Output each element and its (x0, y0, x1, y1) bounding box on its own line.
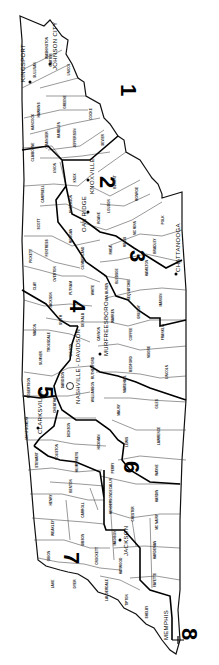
city-label: KNOXVILLE (89, 158, 95, 194)
county-label: VAN BUREN (105, 282, 109, 301)
county-label: HARDIN (155, 489, 159, 502)
county-label: MADISON (113, 530, 117, 546)
county-label: BLOUNT (113, 175, 117, 188)
county-label: HICKMAN (97, 434, 101, 450)
county-label: HAMBLEN (57, 121, 61, 138)
city-label: CHATTANOOGA (175, 223, 181, 272)
county-label: SHELBY (145, 605, 149, 619)
county-label: SCOTT (37, 219, 41, 230)
county-label: TROUSDALE (47, 332, 51, 352)
district-number: 4 (65, 300, 90, 313)
county-label: HAWKINS (37, 102, 41, 117)
county-label: HOUSTON (55, 443, 59, 460)
county-label: SUMNER (39, 350, 43, 365)
tennessee-district-map: 1 2 3 4 5 6 7 8 KINGSPORT JOHNSON CITY K… (0, 0, 219, 665)
county-label: CLAY (33, 281, 37, 290)
county-label: CANNON (97, 326, 101, 341)
county-label: CROCKETT (95, 547, 99, 565)
city-dot-murfreesboro (99, 353, 102, 356)
county-label: UNION (53, 162, 57, 173)
district-number: 6 (119, 461, 144, 473)
county-label: WHITE (91, 285, 95, 295)
county-label: BRADLEY (153, 237, 157, 253)
county-label: PERRY (111, 462, 115, 474)
county-label: CHEATHAM (53, 395, 57, 413)
county-label: MORGAN (69, 228, 73, 243)
county-label: JACKSON (49, 292, 53, 308)
county-label: MACON (33, 323, 37, 336)
district-number: 1 (116, 84, 141, 96)
county-label: FRANKLIN (161, 323, 165, 340)
county-label: BLEDSOE (115, 268, 119, 283)
county-label: GRAINGER (45, 131, 49, 149)
county-label: HENRY (49, 494, 53, 506)
county-label: GIBSON (81, 533, 85, 546)
county-label: LEWIS (125, 437, 129, 447)
county-label: HENDERSON (109, 493, 113, 514)
county-label: CHESTER (131, 506, 135, 522)
county-label: SMITH (59, 314, 63, 325)
county-label: CAMPBELL (41, 185, 45, 203)
county-label: CARROLL (81, 502, 85, 518)
county-label: KNOX (73, 173, 77, 183)
city-label: OAK RIDGE (81, 196, 87, 232)
county-label: HUMPHREYS (75, 452, 79, 472)
county-label: POLK (161, 215, 165, 225)
county-label: WILSON (69, 343, 73, 356)
county-label: STEWART (35, 452, 39, 468)
county-label: GRUNDY (137, 304, 141, 319)
district-number: 8 (177, 628, 202, 640)
city-label: NASHVILLE - DAVIDSON (75, 329, 81, 404)
county-label: WEAKLEY (51, 519, 55, 536)
county-label: MC MINN (133, 220, 137, 235)
county-label: LAWRENCE (157, 427, 161, 445)
county-label: LOUDON (107, 198, 111, 213)
county-label: ROBERTSON (27, 377, 31, 398)
city-label: CLARKSVILLE (37, 390, 43, 434)
county-label: FENTRESS (45, 239, 49, 256)
county-label: MEIGS (123, 237, 127, 247)
county-label: HAMILTON (145, 259, 149, 276)
city-dot-jackson (119, 539, 122, 542)
county-label: MC NAIRY (155, 513, 159, 530)
county-label: OVERTON (53, 265, 57, 281)
county-label: MAURY (117, 403, 121, 415)
county-label: RUTHERFORD (91, 356, 95, 379)
county-label: WAYNE (155, 464, 159, 475)
county-label: FAYETTE (153, 573, 157, 587)
county-label: ANDERSON (69, 194, 73, 213)
county-label: DECALUR (109, 478, 113, 494)
county-label: MARION (159, 293, 163, 307)
county-label: OBION (47, 550, 51, 561)
city-label: KINGSPORT (20, 44, 26, 82)
county-label: DYER (73, 579, 77, 589)
county-label: WILLIAMSON (91, 381, 95, 402)
capitol-star-icon (67, 383, 74, 390)
county-label: LINCOLN (165, 364, 169, 379)
county-label: PICKETT (29, 249, 33, 263)
city-dot-kingsport (29, 81, 32, 84)
county-label: MONTGOMERY (25, 415, 29, 439)
city-label: MEMPHIS (163, 610, 169, 640)
county-label: BENTON (69, 479, 73, 493)
county-label: JEFFERSON (73, 128, 77, 148)
county-label: DAVIDSON (61, 371, 65, 388)
county-label: SEVIER (101, 133, 105, 145)
county-label: CLAIBORNE (31, 143, 35, 162)
county-label: DICKSON (67, 422, 71, 437)
county-label: WARREN (111, 308, 115, 323)
county-label: COFFEE (129, 328, 133, 341)
city-label: MURFREESBORO (103, 301, 109, 356)
county-label: SULLIVAN (33, 61, 37, 77)
county-label: PUTNAM (69, 281, 73, 295)
county-label: GREENE (63, 95, 67, 108)
district-number: 7 (59, 552, 84, 564)
county-label: LAKE (51, 580, 55, 589)
county-label: DE KALB (81, 312, 85, 327)
city-label: JACKSON (123, 526, 129, 556)
county-label: CARTER (49, 53, 53, 67)
county-label: RHEA (109, 245, 113, 255)
county-label: TIPTON (125, 593, 129, 605)
county-label: HARDEMAN (153, 540, 157, 559)
county-label: UNICOI (67, 64, 71, 75)
